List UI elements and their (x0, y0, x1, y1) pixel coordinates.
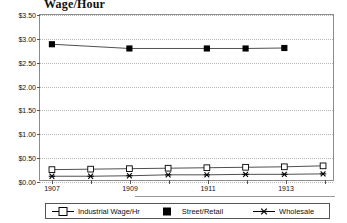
open-square-marker-icon (52, 206, 74, 217)
x-axis-tick (130, 180, 131, 184)
y-axis-tick-label: $1.50 (18, 107, 36, 114)
x-axis-tick-label: 1909 (122, 185, 138, 192)
y-axis-tick-label: $2.50 (18, 59, 36, 66)
x-axis-tick (169, 180, 170, 184)
series-industrial-wage-hr (49, 163, 326, 173)
x-axis-tick (52, 180, 53, 184)
chart-legend: Industrial Wage/Hr Street/Retail Wholesa… (45, 203, 330, 219)
legend-label: Wholesale (279, 207, 314, 216)
gridline (40, 182, 333, 183)
x-axis-tick (208, 180, 209, 184)
x-axis-tick (325, 180, 326, 184)
series-street-retail (49, 41, 288, 51)
legend-item-industrial-wage[interactable]: Industrial Wage/Hr (52, 206, 140, 217)
x-axis-tick-label: 1907 (44, 185, 60, 192)
plot-frame: $0.00$0.50$1.00$1.50$2.00$2.50$3.00$3.50… (39, 14, 334, 181)
y-axis-tick-label: $3.50 (18, 12, 36, 19)
legend-label: Street/Retail (182, 207, 223, 216)
legend-item-wholesale[interactable]: Wholesale (253, 206, 314, 217)
legend-label: Industrial Wage/Hr (78, 207, 140, 216)
page-title: Wage/Hour (44, 0, 105, 12)
y-axis-tick-label: $1.00 (18, 131, 36, 138)
series-layer (40, 15, 333, 180)
asterisk-marker-icon (253, 206, 275, 217)
y-axis-tick-label: $0.00 (18, 179, 36, 186)
legend-item-street-retail[interactable]: Street/Retail (156, 206, 223, 217)
y-axis-tick (37, 182, 40, 183)
x-axis-tick (286, 180, 287, 184)
x-axis-tick-label: 1913 (278, 185, 294, 192)
chart-page: Wage/Hour $0.00$0.50$1.00$1.50$2.00$2.50… (0, 0, 347, 223)
x-axis-tick-label: 1911 (200, 185, 215, 192)
y-axis-tick-label: $0.50 (18, 155, 36, 162)
divider (135, 196, 335, 197)
x-axis-tick (247, 180, 248, 184)
y-axis-tick-label: $2.00 (18, 83, 36, 90)
y-axis-tick-label: $3.00 (18, 35, 36, 42)
filled-square-marker-icon (156, 206, 178, 217)
x-axis-tick (91, 180, 92, 184)
plot-area: $0.00$0.50$1.00$1.50$2.00$2.50$3.00$3.50… (40, 15, 333, 180)
